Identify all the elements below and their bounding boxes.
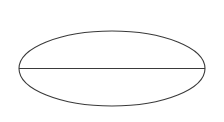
figure-canvas bbox=[0, 0, 224, 122]
ellipse-diagram bbox=[0, 0, 224, 122]
